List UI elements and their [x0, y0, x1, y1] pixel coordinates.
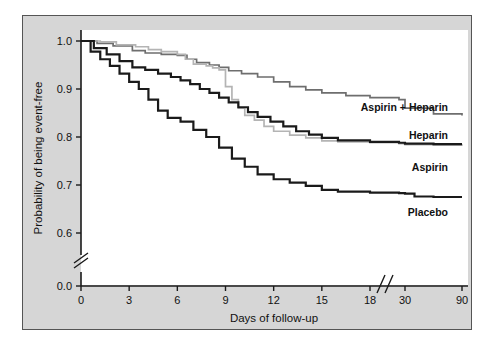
x-tick-label: 9: [222, 294, 228, 306]
x-tick-label: 0: [78, 294, 84, 306]
curve-heparin: [81, 41, 462, 144]
y-axis-ticks: 0.00.60.70.80.91.0: [57, 35, 81, 292]
y-tick-label: 0.0: [57, 280, 72, 292]
curve-aspirin: [81, 41, 462, 146]
y-tick-label: 1.0: [57, 35, 72, 47]
curve-label-aspirin-heparin: Aspirin + Heparin: [361, 101, 448, 113]
curve-label-placebo: Placebo: [408, 206, 448, 218]
x-axis-break-icon: [377, 275, 393, 293]
survival-curves: [81, 41, 462, 197]
axes: [74, 30, 468, 293]
figure-container: 0.00.60.70.80.91.0 03691215183090 Days o…: [0, 0, 486, 347]
x-tick-label: 90: [456, 294, 468, 306]
y-axis-break-icon: [74, 253, 88, 268]
x-axis-title: Days of follow-up: [230, 312, 318, 324]
y-tick-label: 0.9: [57, 83, 72, 95]
x-tick-label: 18: [364, 294, 376, 306]
y-axis-title: Probability of being event-free: [32, 82, 44, 235]
x-tick-label: 6: [174, 294, 180, 306]
x-tick-label: 15: [316, 294, 328, 306]
y-tick-label: 0.6: [57, 227, 72, 239]
curve-label-aspirin: Aspirin: [412, 161, 448, 173]
y-tick-label: 0.7: [57, 179, 72, 191]
survival-curve-chart: 0.00.60.70.80.91.0 03691215183090 Days o…: [0, 0, 486, 347]
y-tick-label: 0.8: [57, 131, 72, 143]
x-tick-label: 12: [268, 294, 280, 306]
x-tick-label: 3: [126, 294, 132, 306]
curve-label-heparin: Heparin: [409, 129, 448, 141]
x-axis-ticks: 03691215183090: [78, 286, 468, 306]
x-tick-label: 30: [399, 294, 411, 306]
